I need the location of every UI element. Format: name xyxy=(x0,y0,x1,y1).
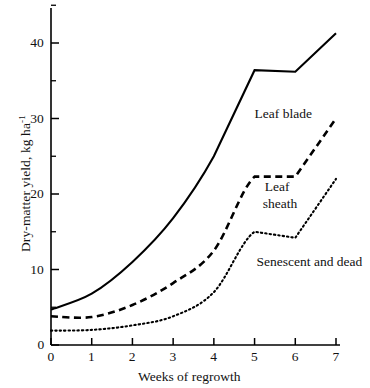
x-tick-label: 5 xyxy=(251,350,258,364)
x-tick-label: 4 xyxy=(210,350,217,364)
y-tick-label: 10 xyxy=(30,263,44,277)
series-label-leaf: Leaf xyxy=(265,180,290,195)
chart-figure: 010203040 01234567 Dry-matter yield, kg … xyxy=(0,0,370,388)
x-tick-label: 6 xyxy=(292,350,299,364)
series-label-leaf-blade: Leaf blade xyxy=(255,107,312,122)
y-axis-title: Dry-matter yield, kg ha-1 xyxy=(18,115,34,252)
x-tick-label: 0 xyxy=(47,350,54,364)
x-axis-ticks xyxy=(51,338,336,345)
axes-group xyxy=(51,5,340,345)
y-tick-label: 0 xyxy=(38,338,45,352)
data-series-group xyxy=(51,33,336,330)
x-tick-label: 1 xyxy=(88,350,95,364)
y-tick-label: 40 xyxy=(30,36,44,50)
y-axis-title-exponent: -1 xyxy=(17,115,27,123)
y-axis-title-base: Dry-matter yield, kg ha xyxy=(18,123,33,252)
series-line-leaf-sheath xyxy=(51,119,336,318)
line-chart-plot xyxy=(0,0,370,388)
x-tick-label: 7 xyxy=(332,350,339,364)
x-tick-label: 2 xyxy=(129,350,136,364)
x-axis-title: Weeks of regrowth xyxy=(138,369,240,385)
series-label-sheath: sheath xyxy=(263,197,298,212)
y-axis-major-ticks xyxy=(51,43,59,345)
x-tick-label: 3 xyxy=(170,350,177,364)
series-label-senescent-and-dead: Senescent and dead xyxy=(257,255,363,270)
